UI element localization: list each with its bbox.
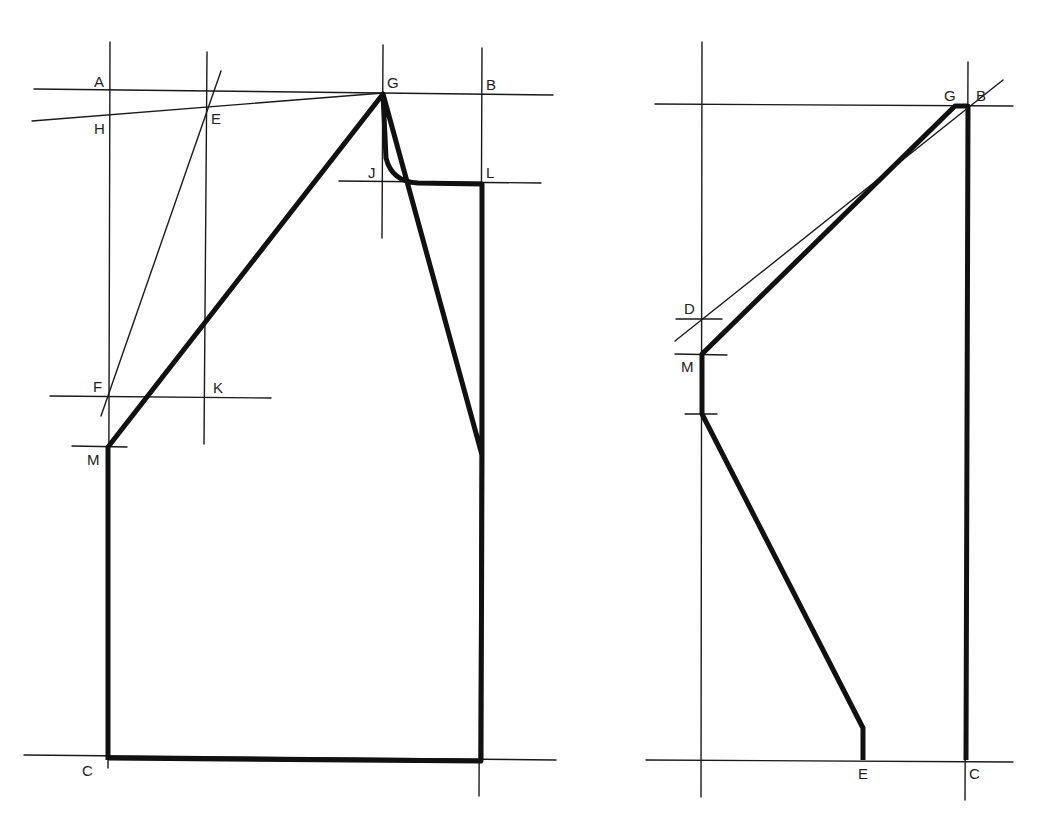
label-B: B: [976, 87, 986, 104]
label-G: G: [387, 74, 399, 91]
pattern-diagram: A H E G B J L F K M C G B D M E C: [0, 0, 1047, 818]
line-left-vertical: [701, 42, 702, 797]
label-E: E: [211, 110, 221, 127]
label-L: L: [486, 164, 494, 181]
line-E-F-diagonal: [101, 71, 221, 416]
line-H-G-slant: [32, 93, 383, 121]
label-M: M: [681, 358, 694, 375]
pattern-outline-left: [108, 94, 482, 761]
label-F: F: [93, 378, 102, 395]
label-A: A: [94, 73, 104, 90]
line-A-B-horizontal: [34, 89, 553, 95]
label-J: J: [368, 164, 376, 181]
label-H: H: [94, 120, 105, 137]
label-D: D: [684, 300, 695, 317]
label-K: K: [213, 379, 223, 396]
label-B: B: [486, 76, 496, 93]
label-G: G: [944, 87, 956, 104]
label-M: M: [87, 451, 100, 468]
line-B-D-slant: [675, 80, 1003, 341]
line-F-K-horizontal: [50, 396, 271, 398]
label-C: C: [82, 762, 93, 779]
tick-M-left: [72, 446, 127, 447]
right-diagram: G B D M E C: [646, 42, 1013, 800]
left-diagram: A H E G B J L F K M C: [24, 42, 556, 796]
label-C: C: [969, 765, 980, 782]
pattern-outline-right: [702, 106, 968, 760]
label-E: E: [858, 765, 868, 782]
